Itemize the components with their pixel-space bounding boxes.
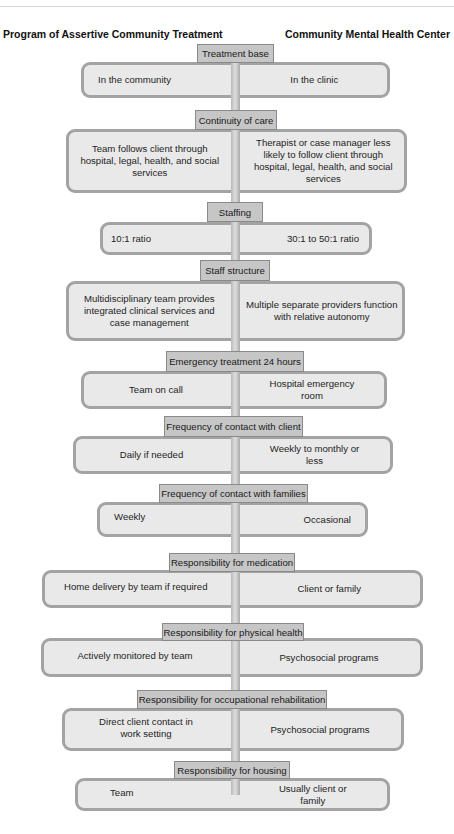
- cmhc-value: Occasional: [239, 505, 366, 534]
- cmhc-value: Multiple separate providers function wit…: [242, 284, 403, 338]
- pact-column-title: Program of Assertive Community Treatment: [3, 28, 223, 40]
- cmhc-value: Usually client or family: [239, 781, 388, 808]
- pact-value: Multidisciplinary team provides integrat…: [69, 284, 230, 338]
- category-label-housing: Responsibility for housing: [174, 761, 290, 779]
- page-top-rule: [0, 6, 454, 7]
- cmhc-value: Psychosocial programs: [239, 711, 401, 748]
- cmhc-value: Hospital emergency room: [240, 374, 384, 406]
- pact-value: In the community: [84, 65, 244, 95]
- category-label-medication: Responsibility for medication: [169, 553, 295, 572]
- pact-value: Actively monitored by team: [44, 641, 226, 674]
- pact-value: Team on call: [84, 374, 228, 406]
- pact-value: Home delivery by team if required: [45, 573, 227, 605]
- cmhc-value: Client or family: [239, 573, 421, 605]
- cmhc-value: Therapist or case manager less likely to…: [243, 132, 405, 190]
- category-label-treatment-base: Treatment base: [197, 44, 274, 63]
- category-label-frequency-client: Frequency of contact with client: [164, 416, 303, 437]
- pact-value: Team follows client through hospital, le…: [69, 132, 231, 190]
- category-label-occupational-rehabilitation: Responsibility for occupational rehabili…: [137, 690, 327, 709]
- pact-value: Direct client contact in work setting: [65, 711, 227, 748]
- category-label-staff-structure: Staff structure: [200, 260, 270, 281]
- pact-value: Daily if needed: [76, 439, 227, 471]
- cmhc-column-title: Community Mental Health Center: [285, 28, 450, 40]
- category-label-physical-health: Responsibility for physical health: [162, 623, 304, 641]
- pact-value: Team: [78, 781, 227, 808]
- pact-value: Weekly: [100, 505, 227, 534]
- category-label-frequency-families: Frequency of contact with families: [159, 484, 308, 503]
- cmhc-value: Psychosocial programs: [238, 641, 420, 674]
- cmhc-value: Weekly to monthly or less: [239, 439, 390, 471]
- category-label-emergency-treatment: Emergency treatment 24 hours: [166, 351, 304, 372]
- category-label-continuity-of-care: Continuity of care: [195, 110, 277, 130]
- category-label-staffing: Staffing: [207, 202, 263, 222]
- pact-value: 10:1 ratio: [103, 225, 238, 252]
- cmhc-value: In the clinic: [242, 65, 388, 95]
- cmhc-value: 30:1 to 50:1 ratio: [242, 225, 369, 252]
